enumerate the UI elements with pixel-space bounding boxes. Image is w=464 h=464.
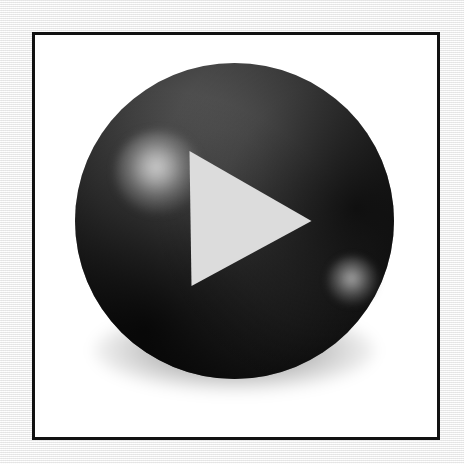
play-button[interactable]	[75, 63, 394, 379]
picture-frame	[32, 32, 440, 440]
frame-plate	[35, 35, 437, 437]
image-canvas	[0, 0, 464, 464]
play-triangle-shape	[190, 151, 312, 286]
play-triangle-icon[interactable]	[75, 63, 394, 379]
